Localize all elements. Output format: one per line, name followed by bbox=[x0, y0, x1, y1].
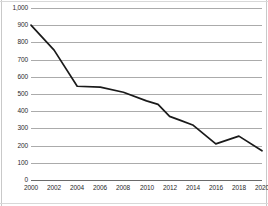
series-1-polyline bbox=[31, 25, 262, 151]
y-tick-label-0: 0 bbox=[2, 176, 28, 183]
y-tick-label-600: 600 bbox=[2, 73, 28, 80]
y-tick-label-900: 900 bbox=[2, 21, 28, 28]
x-tick-label-2020: 2020 bbox=[249, 184, 268, 192]
x-tick-label-2008: 2008 bbox=[110, 184, 136, 192]
line-chart: 1,0009008007006005004003002001000 200020… bbox=[0, 0, 268, 206]
frame-border-top bbox=[0, 1, 268, 2]
y-tick-label-400: 400 bbox=[2, 107, 28, 114]
gridline-0 bbox=[31, 180, 262, 181]
y-tick-label-700: 700 bbox=[2, 56, 28, 63]
y-tick-label-1000: 1,000 bbox=[2, 4, 28, 11]
y-tick-label-800: 800 bbox=[2, 38, 28, 45]
y-tick-label-500: 500 bbox=[2, 90, 28, 97]
data-series-line bbox=[31, 8, 262, 180]
y-tick-label-300: 300 bbox=[2, 124, 28, 131]
y-tick-label-200: 200 bbox=[2, 142, 28, 149]
frame-border-bottom bbox=[0, 203, 268, 204]
y-tick-label-100: 100 bbox=[2, 159, 28, 166]
x-axis-tick-labels: 2000200220042006200820102012201420162018… bbox=[31, 184, 262, 196]
